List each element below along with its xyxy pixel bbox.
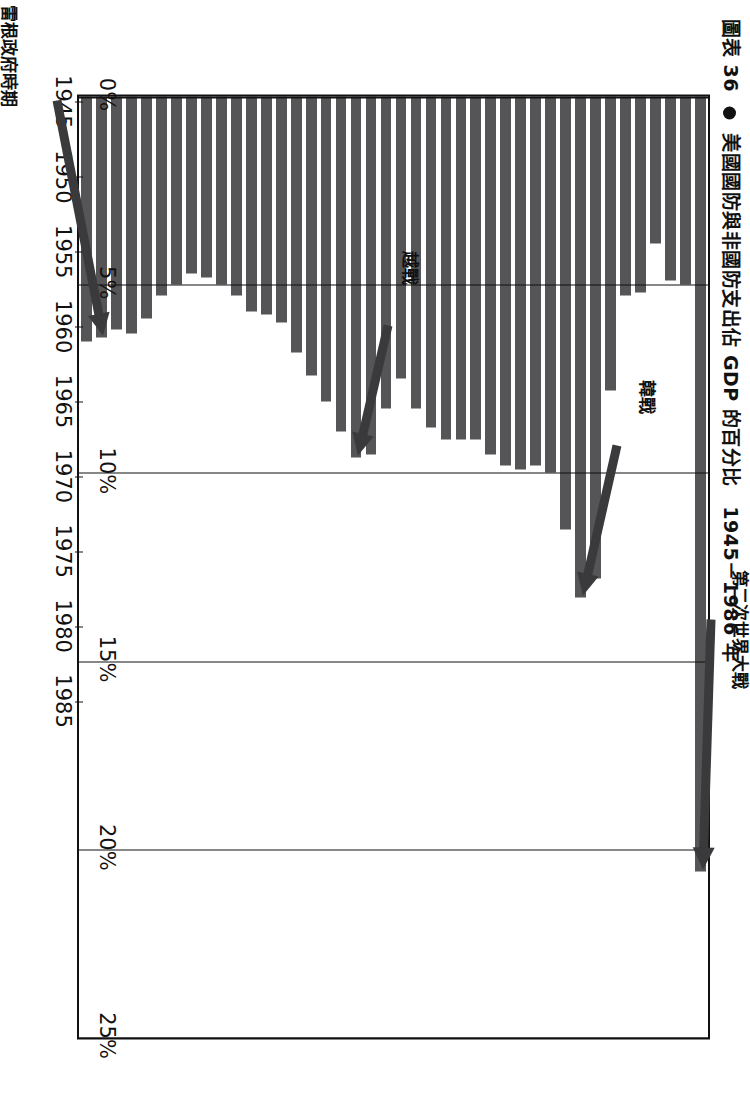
bar-row: [216, 96, 227, 1037]
bar-1950: [620, 96, 631, 295]
bar-row: [545, 96, 556, 1037]
annotation-arrow-icon: [338, 305, 408, 475]
annotation-label: 越戰: [399, 250, 424, 284]
bar-1977: [216, 96, 227, 284]
gridline-5pct: [79, 284, 708, 285]
bar-1957: [515, 96, 526, 469]
bar-row: [470, 96, 481, 1037]
bar-row: [276, 96, 287, 1037]
annotation-arrow-icon: [563, 425, 637, 615]
bar-1974: [261, 96, 272, 314]
bar-row: [650, 96, 661, 1037]
bar-1978: [201, 96, 212, 277]
bar-row: [351, 96, 362, 1037]
bar-1980: [171, 96, 182, 284]
bar-row: [231, 96, 242, 1037]
bar-row: [500, 96, 511, 1037]
bar-row: [680, 96, 691, 1037]
x-tickmark-1975: [75, 551, 83, 552]
bar-row: [201, 96, 212, 1037]
y-tick-label-20pct: 20%: [95, 823, 119, 870]
bar-row: [126, 96, 137, 1037]
bar-1970: [321, 96, 332, 401]
annotation-label: 韓戰: [636, 380, 661, 414]
bar-1961: [456, 96, 467, 439]
x-tickmark-1970: [75, 476, 83, 477]
figure: 圖表 36 美國國防與非國防支出佔 GDP 的百分比 1945－1986 年 1…: [0, 0, 750, 1105]
bar-row: [336, 96, 347, 1037]
bar-row: [186, 96, 197, 1037]
gridline-20pct: [79, 849, 708, 850]
x-tick-label-1985: 1985: [51, 674, 75, 727]
gridline-0pct: [79, 96, 708, 98]
bar-row: [441, 96, 452, 1037]
annotation-arrow-icon: [37, 80, 123, 355]
x-tick-label-1965: 1965: [51, 374, 75, 427]
annotation-arrow-icon: [683, 599, 731, 889]
bar-row: [321, 96, 332, 1037]
bar-1958: [500, 96, 511, 465]
bar-1948: [650, 96, 661, 243]
annotation-label: 第二次世界大戰: [730, 569, 750, 688]
title-prefix: 圖表 36: [720, 18, 742, 92]
bar-1951: [605, 96, 616, 390]
bar-row: [141, 96, 152, 1037]
bar-1959: [485, 96, 496, 454]
bar-row: [530, 96, 541, 1037]
bar-row: [246, 96, 257, 1037]
x-tick-label-1975: 1975: [51, 524, 75, 577]
rotated-page-wrapper: 圖表 36 美國國防與非國防支出佔 GDP 的百分比 1945－1986 年 1…: [0, 0, 750, 1105]
bar-1981: [156, 96, 167, 295]
y-tick-label-15pct: 15%: [95, 635, 119, 682]
bar-1976: [231, 96, 242, 295]
bullet-icon: [723, 106, 736, 119]
bar-1972: [291, 96, 302, 352]
bar-row: [261, 96, 272, 1037]
bar-row: [485, 96, 496, 1037]
bar-1963: [426, 96, 437, 427]
bar-row: [456, 96, 467, 1037]
bar-1946: [680, 96, 691, 284]
bar-1947: [665, 96, 676, 280]
bar-row: [515, 96, 526, 1037]
x-tick-label-1980: 1980: [51, 599, 75, 652]
bar-row: [635, 96, 646, 1037]
bar-1971: [306, 96, 317, 375]
bar-row: [171, 96, 182, 1037]
gridline-15pct: [79, 661, 708, 662]
bar-row: [411, 96, 422, 1037]
x-tickmark-1985: [75, 701, 83, 702]
bar-row: [306, 96, 317, 1037]
y-tick-label-10pct: 10%: [95, 447, 119, 494]
bar-1975: [246, 96, 257, 311]
bar-1973: [276, 96, 287, 322]
y-tick-label-25pct: 25%: [95, 1012, 119, 1059]
x-tick-label-1970: 1970: [51, 449, 75, 502]
bar-row: [426, 96, 437, 1037]
bar-1949: [635, 96, 646, 292]
bar-row: [156, 96, 167, 1037]
bar-row: [381, 96, 392, 1037]
bar-1979: [186, 96, 197, 273]
bar-1960: [470, 96, 481, 439]
page-title: 圖表 36 美國國防與非國防支出佔 GDP 的百分比 1945－1986 年: [716, 18, 746, 1097]
bar-row: [396, 96, 407, 1037]
bar-row: [695, 96, 706, 1037]
annotation-label: 雷根政府時期: [0, 5, 23, 107]
bar-1962: [441, 96, 452, 439]
bar-1956: [530, 96, 541, 465]
bar-row: [291, 96, 302, 1037]
gridline-25pct: [79, 1037, 708, 1038]
x-tickmark-1980: [75, 626, 83, 627]
bar-row: [665, 96, 676, 1037]
bar-1983: [126, 96, 137, 333]
x-tickmark-1965: [75, 401, 83, 402]
bar-row: [366, 96, 377, 1037]
